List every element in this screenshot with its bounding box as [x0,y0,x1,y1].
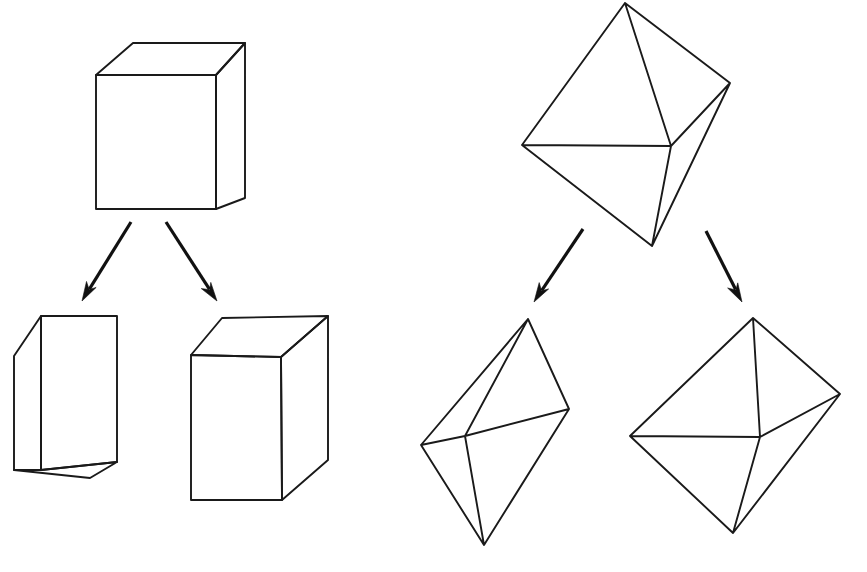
parent-box [96,43,245,209]
parent-box-face-front [96,75,216,209]
child-box-narrow-face-front [41,316,117,470]
child-box-narrow [14,316,117,478]
shape-diagram [0,0,867,572]
figure-canvas [0,0,867,572]
child-box-tall-face-front [191,355,282,500]
child-box-tall [191,316,328,500]
